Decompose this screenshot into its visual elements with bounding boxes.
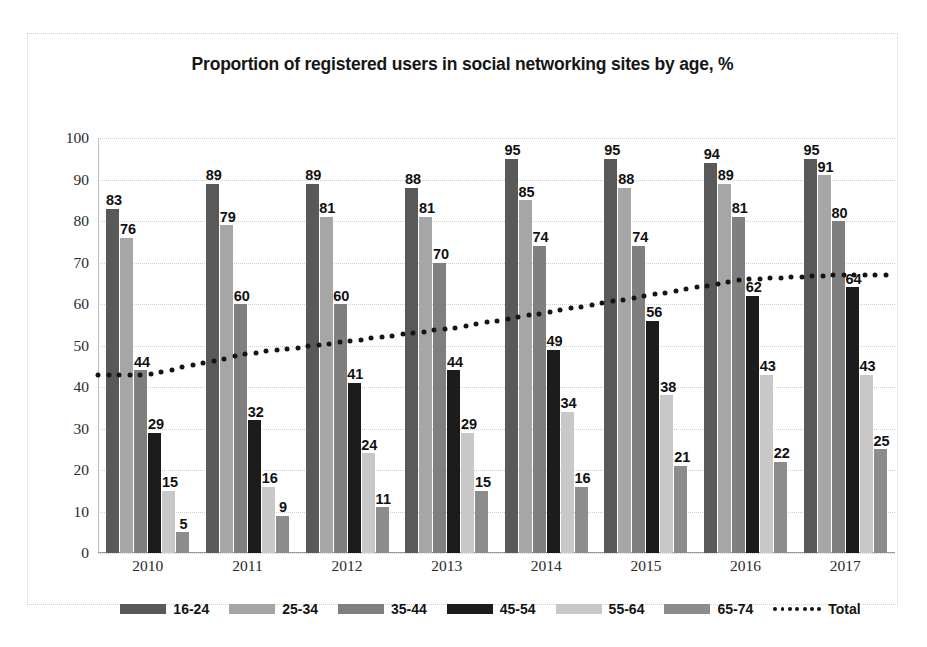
bar[interactable]: 56 [646,321,659,553]
bar[interactable]: 62 [746,296,759,553]
bar-value-label: 44 [134,355,150,370]
y-tick-label: 10 [37,503,89,521]
bar[interactable]: 88 [405,188,418,553]
bar-value-label: 16 [575,471,591,486]
bar-groups: 8376442915589796032169898160412411888170… [98,138,895,553]
bar-value-label: 89 [718,168,734,183]
bar[interactable]: 81 [732,217,745,553]
bar[interactable]: 44 [447,370,460,553]
bar[interactable]: 70 [433,263,446,554]
bar[interactable]: 74 [632,246,645,553]
bar[interactable]: 15 [162,491,175,553]
bar[interactable]: 15 [475,491,488,553]
bar-value-label: 80 [831,206,847,221]
bar-value-label: 88 [618,172,634,187]
bar-value-label: 15 [475,475,491,490]
bar-value-label: 22 [774,446,790,461]
bar-group: 948981624322 [696,138,796,553]
bar-group: 83764429155 [98,138,198,553]
legend-swatch [556,604,602,614]
bar-value-label: 95 [604,143,620,158]
bar-group: 959180644325 [795,138,895,553]
bar[interactable]: 16 [575,487,588,553]
bar-value-label: 38 [660,380,676,395]
bar[interactable]: 60 [234,304,247,553]
bar[interactable]: 89 [718,184,731,553]
bar-value-label: 81 [732,201,748,216]
bar-value-label: 74 [632,230,648,245]
legend-swatch [664,604,710,614]
bar[interactable]: 60 [334,304,347,553]
bar[interactable]: 21 [674,466,687,553]
bar[interactable]: 32 [248,420,261,553]
bar-value-label: 29 [148,417,164,432]
bar[interactable]: 43 [760,375,773,553]
bar[interactable]: 81 [419,217,432,553]
bar[interactable]: 43 [860,375,873,553]
bar[interactable]: 41 [348,383,361,553]
bar-value-label: 34 [561,396,577,411]
y-tick-label: 0 [37,544,89,562]
bar-value-label: 83 [106,193,122,208]
bar-value-label: 76 [120,222,136,237]
bar-value-label: 89 [305,168,321,183]
bar-group: 958574493416 [497,138,597,553]
bar-value-label: 43 [760,359,776,374]
bar-value-label: 94 [704,147,720,162]
bar[interactable]: 85 [519,200,532,553]
bar-value-label: 56 [646,305,662,320]
bar[interactable]: 49 [547,350,560,553]
bar[interactable]: 44 [134,370,147,553]
bar-value-label: 11 [376,492,391,507]
bar[interactable]: 81 [320,217,333,553]
bar[interactable]: 38 [660,395,673,553]
bar[interactable]: 64 [846,287,859,553]
y-tick-label: 20 [37,461,89,479]
figure-caption [0,614,927,647]
bar-value-label: 79 [220,210,236,225]
bar[interactable]: 95 [505,159,518,553]
x-tick-label: 2010 [98,557,198,583]
bar[interactable]: 22 [774,462,787,553]
y-tick-label: 40 [37,378,89,396]
y-tick-label: 60 [37,295,89,313]
bar[interactable]: 34 [561,412,574,553]
bar-value-label: 88 [405,172,421,187]
bar[interactable]: 74 [533,246,546,553]
bar[interactable]: 95 [604,159,617,553]
bar[interactable]: 9 [276,516,289,553]
bar-value-label: 15 [162,475,178,490]
bar[interactable]: 94 [704,163,717,553]
bar-value-label: 43 [859,359,875,374]
y-tick-label: 80 [37,212,89,230]
bar[interactable]: 24 [362,453,375,553]
bar-value-label: 21 [674,450,690,465]
bar-value-label: 60 [234,289,250,304]
chart-title: Proportion of registered users in social… [28,54,897,75]
bar-value-label: 95 [803,143,819,158]
bar[interactable]: 80 [832,221,845,553]
bar[interactable]: 5 [176,532,189,553]
bar[interactable]: 89 [306,184,319,553]
bar[interactable]: 89 [206,184,219,553]
bar[interactable]: 16 [262,487,275,553]
x-tick-label: 2017 [795,557,895,583]
bar[interactable]: 79 [220,225,233,553]
bar-value-label: 60 [333,289,349,304]
bar[interactable]: 25 [874,449,887,553]
bar-value-label: 29 [461,417,477,432]
plot-area: 1009080706050403020100 83764429155897960… [98,138,895,553]
bar-value-label: 64 [845,272,861,287]
bar-value-label: 25 [873,434,889,449]
bar[interactable]: 91 [818,175,831,553]
bar[interactable]: 83 [106,209,119,553]
bar-group: 958874563821 [596,138,696,553]
bar[interactable]: 76 [120,238,133,553]
bar[interactable]: 88 [618,188,631,553]
bar[interactable]: 29 [148,433,161,553]
bar[interactable]: 29 [461,433,474,553]
bar-value-label: 91 [817,160,833,175]
bar[interactable]: 11 [376,507,389,553]
bar-value-label: 85 [519,185,535,200]
bar[interactable]: 95 [804,159,817,553]
